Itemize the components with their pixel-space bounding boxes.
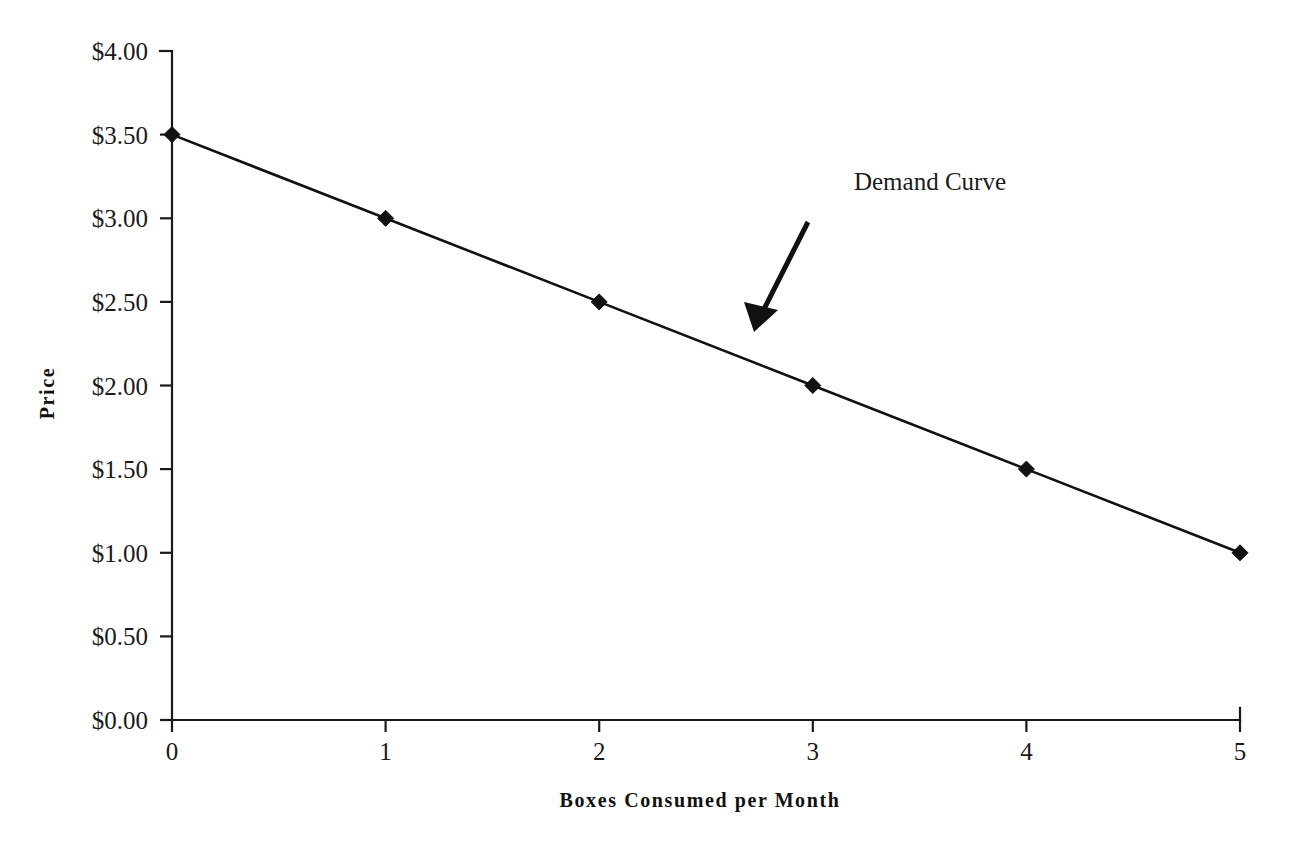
x-tick-label-1: 1	[379, 738, 392, 765]
x-tick-label-2: 2	[593, 738, 606, 765]
y-tick-label-6: $3.00	[92, 205, 148, 232]
y-tick-label-3: $1.50	[92, 456, 148, 483]
y-tick-label-5: $2.50	[92, 289, 148, 316]
data-point-marker[interactable]	[378, 210, 394, 226]
annotation-arrow-shaft	[763, 222, 808, 311]
x-tick-label-0: 0	[166, 738, 179, 765]
data-point-marker[interactable]	[591, 294, 607, 310]
x-tick-label-3: 3	[807, 738, 820, 765]
x-tick-label-5: 5	[1234, 738, 1247, 765]
data-point-marker[interactable]	[1232, 545, 1248, 561]
y-axis-title: Price	[36, 367, 58, 419]
y-tick-label-2: $1.00	[92, 540, 148, 567]
annotation-label-demand-curve: Demand Curve	[854, 168, 1006, 195]
demand-curve-chart: $0.00 $0.50 $1.00 $1.50 $2.00 $2.50 $3.0…	[0, 0, 1309, 854]
x-tick-label-4: 4	[1020, 738, 1033, 765]
demand-curve-line	[172, 135, 1240, 553]
data-point-marker[interactable]	[1018, 461, 1034, 477]
y-tick-label-0: $0.00	[92, 707, 148, 734]
chart-page: $0.00 $0.50 $1.00 $1.50 $2.00 $2.50 $3.0…	[0, 0, 1309, 854]
y-tick-label-8: $4.00	[92, 38, 148, 65]
y-tick-label-7: $3.50	[92, 122, 148, 149]
y-tick-label-4: $2.00	[92, 373, 148, 400]
data-point-marker[interactable]	[805, 378, 821, 394]
y-tick-label-1: $0.50	[92, 623, 148, 650]
data-point-marker[interactable]	[164, 127, 180, 143]
annotation-arrow-head-icon	[744, 302, 778, 332]
x-axis-title: Boxes Consumed per Month	[560, 789, 841, 812]
